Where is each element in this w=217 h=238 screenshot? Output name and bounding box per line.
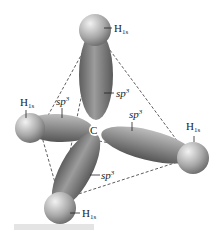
h-sphere-right <box>177 142 209 174</box>
h-sphere-bottom <box>44 192 76 224</box>
h-label-right: H1s <box>186 120 200 142</box>
svg-text:H1s: H1s <box>114 22 128 36</box>
caption-bar <box>14 224 94 230</box>
svg-text:H1s: H1s <box>20 96 34 110</box>
svg-text:sp3: sp3 <box>101 169 115 181</box>
svg-text:H1s: H1s <box>186 120 200 134</box>
sp3-label-bottom: sp3 <box>90 169 115 181</box>
svg-text:sp3: sp3 <box>116 87 130 99</box>
methane-diagram: C H1s H1s H1s H1s sp3 sp3 sp3 sp3 <box>0 0 217 238</box>
svg-text:sp3: sp3 <box>56 95 70 107</box>
h-sphere-top <box>79 14 111 46</box>
h-sphere-left <box>15 113 45 143</box>
carbon-label: C <box>90 124 97 136</box>
svg-text:H1s: H1s <box>82 207 96 221</box>
svg-text:sp3: sp3 <box>129 108 143 120</box>
